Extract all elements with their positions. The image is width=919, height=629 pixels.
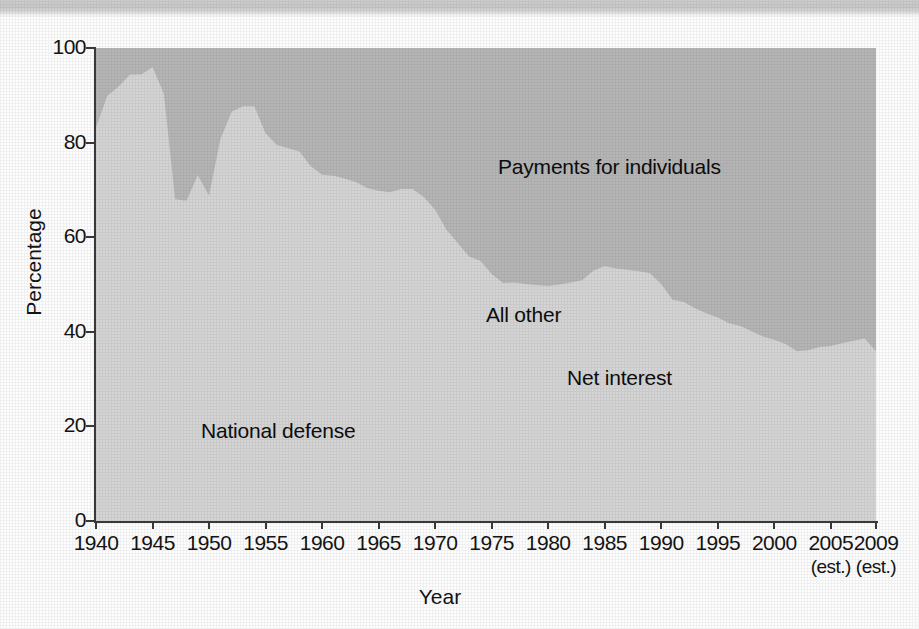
x-tick-mark — [773, 521, 775, 529]
x-tick-sublabel: (est.) — [836, 556, 916, 578]
y-tick-label: 80 — [38, 130, 86, 154]
y-tick-mark — [86, 425, 95, 427]
x-tick-mark — [321, 521, 323, 529]
y-axis-line — [94, 47, 96, 522]
y-tick-mark — [86, 520, 95, 522]
x-axis-label: Year — [380, 585, 500, 609]
series-label-national-defense: National defense — [201, 419, 355, 443]
x-tick-mark — [378, 521, 380, 529]
x-axis-line — [94, 521, 878, 523]
x-tick-mark — [208, 521, 210, 529]
x-tick-mark — [265, 521, 267, 529]
x-tick-mark — [717, 521, 719, 529]
series-label-net-interest: Net interest — [567, 366, 672, 390]
y-tick-mark — [86, 331, 95, 333]
x-tick-label: 2009 — [836, 531, 916, 555]
stacked-area-chart: 020406080100 194019451950195519601965197… — [0, 0, 919, 629]
x-tick-mark — [830, 521, 832, 529]
y-tick-mark — [86, 236, 95, 238]
x-tick-mark — [152, 521, 154, 529]
y-tick: 100 — [26, 35, 86, 57]
x-tick-mark — [875, 521, 877, 529]
x-tick-mark — [434, 521, 436, 529]
y-tick: 0 — [26, 508, 86, 530]
plot-area — [96, 48, 876, 521]
x-tick-mark — [95, 521, 97, 529]
x-tick-mark — [547, 521, 549, 529]
y-tick-label: 100 — [38, 35, 86, 59]
y-tick: 20 — [26, 413, 86, 435]
x-tick-mark — [660, 521, 662, 529]
y-tick-label: 0 — [38, 508, 86, 532]
series-label-payments-for-individuals: Payments for individuals — [498, 155, 721, 179]
chart-svg — [96, 48, 876, 521]
y-tick-mark — [86, 142, 95, 144]
y-tick-mark — [86, 47, 95, 49]
x-tick-mark — [491, 521, 493, 529]
series-label-all-other: All other — [486, 303, 561, 327]
x-tick-mark — [604, 521, 606, 529]
y-axis-label: Percentage — [22, 172, 46, 352]
y-tick-label: 20 — [38, 413, 86, 437]
y-tick: 80 — [26, 130, 86, 152]
figure-page: 020406080100 194019451950195519601965197… — [0, 0, 919, 629]
